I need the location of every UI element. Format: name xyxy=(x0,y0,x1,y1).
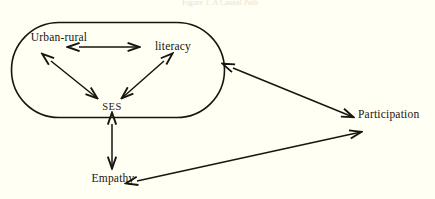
node-literacy: literacy xyxy=(143,40,203,52)
edge-literacy-ses xyxy=(122,61,164,98)
edge-cluster-participation xyxy=(233,68,353,117)
edge-urbanrural-ses xyxy=(51,61,97,98)
node-ses: SES xyxy=(88,101,136,112)
node-empathy: Empathy xyxy=(78,172,148,184)
causal-path-diagram: Figure 1. A Causal Path literacy --> SES… xyxy=(0,0,435,199)
node-participation: Participation xyxy=(358,108,435,120)
node-urban-rural: Urban-rural xyxy=(30,31,88,44)
edge-empathy-participation xyxy=(137,132,361,181)
diagram-canvas: literacy --> SES --> SES --> Empathy -->… xyxy=(0,0,435,199)
